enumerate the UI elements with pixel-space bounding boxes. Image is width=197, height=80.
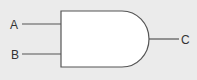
input-b-label: B — [11, 48, 19, 62]
input-a-label: A — [10, 18, 18, 32]
and-gate-diagram: A B C — [0, 0, 197, 80]
and-gate-body — [61, 11, 149, 67]
output-c-label: C — [181, 33, 190, 47]
diagram-canvas: A B C — [0, 0, 197, 80]
